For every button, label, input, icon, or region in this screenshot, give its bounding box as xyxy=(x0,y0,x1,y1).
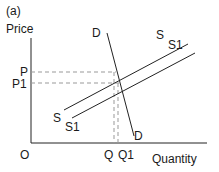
x-axis-label: Quantity xyxy=(152,152,197,166)
supply-s-bottom-label: S xyxy=(53,111,61,125)
supply-demand-diagram: (a) Price Quantity O P P1 Q Q1 D D S S1 … xyxy=(0,0,219,172)
supply-curve-s1 xyxy=(72,53,195,118)
price-p1-label: P1 xyxy=(12,77,27,91)
demand-bottom-label: D xyxy=(134,129,143,143)
panel-label: (a) xyxy=(6,4,21,18)
supply-s1-bottom-label: S1 xyxy=(65,120,80,134)
quantity-q1-label: Q1 xyxy=(118,148,134,162)
quantity-q-label: Q xyxy=(104,148,113,162)
origin-label: O xyxy=(20,148,29,162)
supply-s1-top-label: S1 xyxy=(168,38,183,52)
y-axis-label: Price xyxy=(6,22,34,36)
supply-curve-s xyxy=(64,44,188,110)
demand-top-label: D xyxy=(92,26,101,40)
supply-s-top-label: S xyxy=(156,28,164,42)
